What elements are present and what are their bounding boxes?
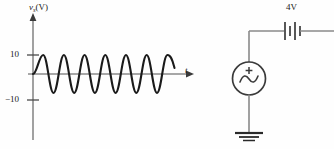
y-axis-arrowhead (30, 13, 37, 21)
figure-container: vs(V) 10 −10 t (0, 0, 334, 149)
circuit-panel: 4V (200, 0, 334, 149)
y-tick-label-negative: −10 (5, 95, 19, 104)
waveform-panel: vs(V) 10 −10 t (0, 0, 200, 149)
x-axis-title: t (185, 66, 188, 75)
circuit-svg (200, 0, 334, 149)
y-axis-title: vs(V) (29, 3, 48, 13)
y-tick-label-positive: 10 (10, 50, 19, 59)
y-axis-unit: (V) (36, 2, 49, 12)
battery-voltage-label: 4V (286, 3, 297, 12)
waveform-svg (0, 0, 200, 149)
ac-source-sine-icon (240, 76, 258, 82)
